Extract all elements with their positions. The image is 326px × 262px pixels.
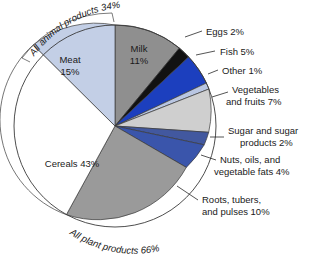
label-vegetables-fruits-line2: and fruits 7% — [226, 96, 282, 107]
group-label-plant-products: All plant products 66% — [67, 226, 161, 256]
label-roots-line1: Roots, tubers, — [202, 194, 261, 205]
label-meat-value: 15% — [60, 66, 80, 77]
pie-chart-svg: Meat 15% Milk 11% Cereals 43% Eggs 2% Fi… — [0, 0, 326, 262]
leader-other — [208, 70, 218, 74]
label-nuts-line1: Nuts, oils, and — [220, 154, 280, 165]
outer-labels: Eggs 2% Fish 5% Other 1% Vegetables and … — [202, 26, 298, 217]
leader-eggs — [185, 31, 202, 37]
label-milk: Milk — [131, 43, 148, 54]
leader-nuts — [201, 155, 216, 160]
label-cereals: Cereals 43% — [45, 158, 100, 169]
label-sugar-line1: Sugar and sugar — [228, 125, 298, 136]
label-nuts-line2: vegetable fats 4% — [214, 166, 290, 177]
label-fish: Fish 5% — [220, 46, 255, 57]
label-eggs: Eggs 2% — [206, 26, 245, 37]
label-other: Other 1% — [222, 65, 263, 76]
label-roots-line2: and pulses 10% — [202, 206, 270, 217]
leader-fish — [196, 51, 215, 55]
label-meat: Meat — [59, 54, 80, 65]
label-milk-value: 11% — [130, 55, 149, 66]
label-sugar-line2: products 2% — [240, 137, 293, 148]
pie-chart-figure: Meat 15% Milk 11% Cereals 43% Eggs 2% Fi… — [0, 0, 326, 262]
label-vegetables-fruits-line1: Vegetables — [232, 84, 279, 95]
